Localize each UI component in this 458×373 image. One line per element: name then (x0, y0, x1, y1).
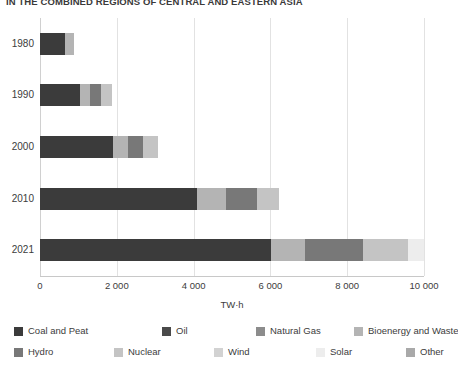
legend-swatch-icon (162, 327, 171, 336)
legend-item[interactable]: Nuclear (114, 347, 161, 357)
x-axis-line (40, 276, 424, 277)
x-axis-tick-label: 2 000 (105, 280, 129, 291)
bar-row (40, 84, 424, 106)
legend-label: Bioenergy and Waste (368, 326, 458, 336)
legend-label: Coal and Peat (28, 326, 88, 336)
legend-swatch-icon (14, 348, 23, 357)
x-axis-tick-label: 6 000 (259, 280, 283, 291)
bar-segment[interactable] (101, 84, 111, 106)
legend-item[interactable]: Hydro (14, 347, 53, 357)
stacked-bar[interactable] (40, 136, 158, 158)
bar-segment[interactable] (40, 33, 65, 55)
bar-row (40, 188, 424, 210)
legend-item[interactable]: Bioenergy and Waste (354, 326, 458, 336)
x-axis-tick-label: 4 000 (182, 280, 206, 291)
legend-label: Solar (330, 347, 352, 357)
stacked-bar[interactable] (40, 33, 74, 55)
bar-segment[interactable] (40, 239, 271, 261)
legend-item[interactable]: Oil (162, 326, 188, 336)
legend-item[interactable]: Natural Gas (256, 326, 321, 336)
bar-row (40, 33, 424, 55)
bar-segment[interactable] (40, 188, 197, 210)
bar-row (40, 239, 424, 261)
x-axis-title: TW·h (40, 299, 424, 310)
bar-segment[interactable] (128, 136, 143, 158)
legend-item[interactable]: Coal and Peat (14, 326, 88, 336)
bar-segment[interactable] (90, 84, 102, 106)
legend-label: Oil (176, 326, 188, 336)
stacked-bar[interactable] (40, 239, 424, 261)
legend-label: Wind (228, 347, 250, 357)
bar-segment[interactable] (257, 188, 279, 210)
bar-segment[interactable] (197, 188, 226, 210)
bar-segment[interactable] (271, 239, 305, 261)
bar-segment[interactable] (65, 33, 75, 55)
bar-segment[interactable] (113, 136, 128, 158)
legend-swatch-icon (114, 348, 123, 357)
legend-item[interactable]: Wind (214, 347, 250, 357)
bar-segment[interactable] (363, 239, 408, 261)
legend-swatch-icon (406, 348, 415, 357)
gridline (424, 18, 425, 276)
legend-swatch-icon (214, 348, 223, 357)
page-title: IN THE COMBINED REGIONS OF CENTRAL AND E… (6, 0, 436, 7)
bar-segment[interactable] (80, 84, 90, 106)
x-axis-tick-label: 8 000 (335, 280, 359, 291)
legend-label: Other (420, 347, 444, 357)
legend-swatch-icon (354, 327, 363, 336)
legend-row: HydroNuclearWindSolarOther (14, 347, 434, 368)
legend-label: Nuclear (128, 347, 161, 357)
legend-label: Natural Gas (270, 326, 321, 336)
legend: Coal and PeatOilNatural GasBioenergy and… (14, 326, 434, 368)
bar-segment[interactable] (408, 239, 424, 261)
bar-segment[interactable] (143, 136, 158, 158)
bar-row (40, 136, 424, 158)
legend-item[interactable]: Solar (316, 347, 352, 357)
y-axis-label: 2021 (0, 239, 34, 261)
stacked-bar[interactable] (40, 188, 279, 210)
legend-swatch-icon (256, 327, 265, 336)
legend-swatch-icon (316, 348, 325, 357)
legend-label: Hydro (28, 347, 53, 357)
y-axis-label: 1980 (0, 33, 34, 55)
x-axis-tick-label: 10 000 (409, 280, 438, 291)
x-axis-tick-label: 0 (37, 280, 42, 291)
legend-item[interactable]: Other (406, 347, 444, 357)
bar-segment[interactable] (40, 84, 80, 106)
bar-segment[interactable] (226, 188, 257, 210)
bar-segment[interactable] (305, 239, 363, 261)
y-axis-label: 2010 (0, 188, 34, 210)
y-axis-label: 1990 (0, 84, 34, 106)
bar-segment[interactable] (40, 136, 113, 158)
legend-swatch-icon (14, 327, 23, 336)
stacked-bar[interactable] (40, 84, 112, 106)
legend-row: Coal and PeatOilNatural GasBioenergy and… (14, 326, 434, 347)
plot-area (40, 18, 424, 276)
y-axis-label: 2000 (0, 136, 34, 158)
